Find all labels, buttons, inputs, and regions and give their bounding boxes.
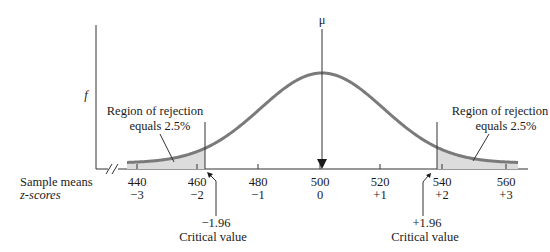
right-region-pointer — [473, 134, 489, 161]
left-region-label-line2: equals 2.5% — [129, 119, 190, 133]
tick-labels: 440−3460−2480−15000520+1540+2560+3 — [128, 175, 516, 202]
tick-label-mean: 540 — [433, 175, 452, 189]
right-region-label-line2: equals 2.5% — [475, 119, 536, 133]
left-critical-label: Critical value — [179, 230, 247, 244]
tick-label-z: +1 — [373, 188, 386, 202]
tick-label-z: −3 — [130, 188, 143, 202]
tick-label-z: +2 — [435, 188, 448, 202]
z-scores-row-label: z-scores — [19, 188, 61, 202]
left-critical-value: −1.96 — [202, 216, 231, 230]
tick-label-z: −2 — [190, 188, 203, 202]
tick-label-mean: 440 — [128, 175, 147, 189]
right-critical-value: +1.96 — [413, 216, 442, 230]
mu-arrow-head-icon — [317, 159, 327, 169]
right-region-label-line1: Region of rejection — [452, 104, 549, 118]
sample-means-row-label: Sample means — [20, 175, 93, 189]
tick-label-z: 0 — [317, 188, 323, 202]
tick-label-mean: 460 — [188, 175, 207, 189]
tick-label-mean: 560 — [497, 175, 516, 189]
tick-label-mean: 500 — [311, 175, 330, 189]
tick-label-z: +3 — [499, 188, 512, 202]
left-region-label-line1: Region of rejection — [107, 104, 204, 118]
y-axis-label: f — [84, 88, 89, 102]
mu-label: μ — [319, 13, 326, 27]
tick-label-mean: 480 — [249, 175, 268, 189]
normal-distribution-diagram: μ f Region of rejection equals 2.5% Regi… — [0, 0, 550, 252]
tick-label-mean: 520 — [371, 175, 390, 189]
right-critical-pointer-curve — [423, 176, 428, 182]
right-critical-label: Critical value — [391, 230, 459, 244]
tick-label-z: −1 — [251, 188, 264, 202]
